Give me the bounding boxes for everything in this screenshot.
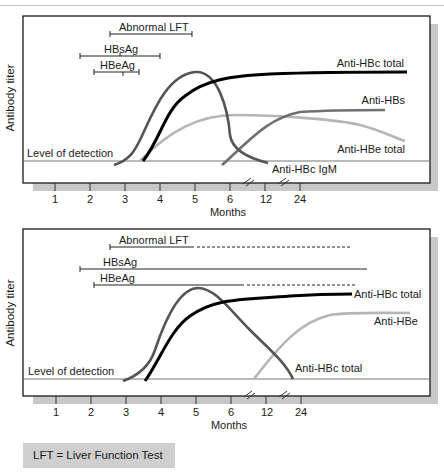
abnormal-lft-label: Abnormal LFT — [119, 21, 189, 33]
x-tick-labels: 1 2 3 4 5 6 12 24 — [53, 406, 307, 418]
y-axis-label: Antibody titer — [4, 64, 16, 131]
anti-hbs-label: Anti-HBs — [362, 94, 406, 106]
svg-text:1: 1 — [53, 406, 59, 418]
y-axis-label: Antibody titer — [4, 279, 16, 346]
svg-text:12: 12 — [261, 406, 273, 418]
bottom-chart: Antibody titer Level of detection Abnorm… — [4, 229, 438, 431]
svg-text:2: 2 — [87, 193, 93, 205]
svg-text:3: 3 — [122, 193, 128, 205]
svg-text:24: 24 — [295, 406, 307, 418]
x-axis-label: Months — [210, 206, 247, 218]
chart-shadow-bottom — [33, 396, 438, 404]
hbsag-label: HBsAg — [104, 43, 138, 55]
top-chart: Antibody titer Level of detection Abnorm… — [4, 16, 438, 218]
svg-text:2: 2 — [88, 406, 94, 418]
detection-label: Level of detection — [27, 147, 113, 159]
abnormal-lft-label: Abnormal LFT — [119, 234, 189, 246]
svg-text:4: 4 — [157, 193, 163, 205]
svg-text:5: 5 — [192, 193, 198, 205]
svg-text:12: 12 — [260, 193, 272, 205]
svg-text:24: 24 — [294, 193, 306, 205]
chart-shadow-right — [430, 237, 438, 404]
x-axis-label: Months — [211, 419, 248, 431]
anti-hbe-label: Anti-HBe — [374, 315, 418, 327]
hbeag-label: HBeAg — [100, 272, 135, 284]
svg-text:3: 3 — [123, 406, 129, 418]
detection-label: Level of detection — [28, 365, 114, 377]
hepatitis-b-serology-diagram: Antibody titer Level of detection Abnorm… — [0, 0, 444, 473]
legend-note: LFT = Liver Function Test — [23, 443, 175, 468]
svg-text:6: 6 — [228, 406, 234, 418]
anti-hbc-igm-label: Anti-HBc IgM — [272, 163, 337, 175]
anti-hbc-total-lower-label: Anti-HBc total — [295, 362, 362, 374]
svg-text:5: 5 — [193, 406, 199, 418]
anti-hbe-total-label: Anti-HBe total — [337, 143, 405, 155]
chart-shadow-right — [430, 24, 438, 191]
anti-hbc-total-label: Anti-HBc total — [337, 57, 404, 69]
svg-text:4: 4 — [158, 406, 164, 418]
hbeag-label: HBeAg — [100, 59, 135, 71]
svg-text:1: 1 — [52, 193, 58, 205]
anti-hbc-total-label: Anti-HBc total — [354, 288, 421, 300]
chart-shadow-bottom — [33, 183, 438, 191]
hbsag-label: HBsAg — [103, 256, 137, 268]
x-tick-labels: 1 2 3 4 5 6 12 24 — [52, 193, 306, 205]
svg-text:6: 6 — [227, 193, 233, 205]
